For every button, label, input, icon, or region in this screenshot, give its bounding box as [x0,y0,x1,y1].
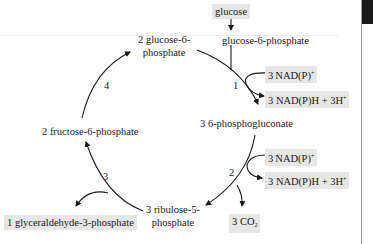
cofactor-step1-in: 3 NAD(P)+ [265,66,317,83]
step-label-2: 2 [229,167,234,178]
node-2-glucose-6-phosphate: 2 glucose-6- phosphate [138,33,190,59]
step1-arc [197,50,258,104]
node-1-glyceraldehyde-3-phosphate: 1 glyceraldehyde-3-phosphate [4,215,137,230]
node-2-fructose-6-phosphate: 2 fructose-6-phosphate [42,125,139,138]
cofactor-step2-in: 3 NAD(P)+ [265,149,317,166]
step2-cofactor-arrow [247,155,266,178]
node-glucose: glucose [212,4,250,19]
step3-branch-arrow [76,192,108,206]
node-glucose-6-phosphate: glucose-6-phosphate [222,34,309,47]
node-3-ribulose-5-phosphate: 3 ribulose-5- phosphate [146,203,200,229]
step-label-4: 4 [104,80,109,91]
cofactor-step1-out: 3 NAD(P)H + 3H+ [265,91,349,108]
step-label-1: 1 [233,80,238,91]
cofactor-step2-out: 3 NAD(P)H + 3H+ [265,172,349,189]
co2-arrow [237,185,242,206]
cofactor-co2: 3 CO2 [229,214,260,233]
step-label-3: 3 [103,171,108,182]
step3-arc [86,142,143,211]
node-6-phosphogluconate: 3 6-phosphogluconate [200,117,293,130]
